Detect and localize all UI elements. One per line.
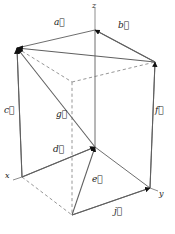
vector-label-g: g⃗ bbox=[56, 110, 67, 119]
axis-stub-group bbox=[13, 8, 158, 191]
vector-label-c: c⃗ bbox=[4, 106, 14, 115]
vector-arrow-group bbox=[17, 30, 155, 215]
vector-label-j: j⃗ bbox=[114, 207, 122, 216]
vector-g bbox=[17, 48, 95, 147]
hidden-edge-group bbox=[17, 48, 155, 215]
dashed-topback-topright bbox=[72, 62, 155, 82]
vector-label-a: a⃗ bbox=[54, 18, 65, 27]
vector-label-d: d⃗ bbox=[53, 145, 64, 154]
dashed-xorigin-bottom bbox=[22, 177, 72, 215]
vector-c bbox=[17, 48, 22, 177]
axis-label-x: x bbox=[5, 172, 10, 180]
visible-edge-group bbox=[17, 30, 155, 215]
vector-f bbox=[150, 62, 155, 188]
axis-label-z: z bbox=[92, 2, 96, 10]
x-axis-stub bbox=[13, 177, 22, 180]
vector-a bbox=[17, 48, 155, 62]
vector-j bbox=[72, 188, 150, 215]
edge-center-yvertex bbox=[95, 147, 150, 188]
vector-label-f: f⃗ bbox=[155, 106, 164, 115]
y-axis-stub bbox=[150, 188, 158, 191]
edge-ztop-topleft bbox=[17, 30, 95, 48]
vector-label-b: b⃗ bbox=[118, 21, 129, 30]
vector-diagram bbox=[0, 0, 175, 234]
vector-label-e: e⃗ bbox=[92, 175, 103, 184]
axis-label-y: y bbox=[159, 190, 164, 198]
